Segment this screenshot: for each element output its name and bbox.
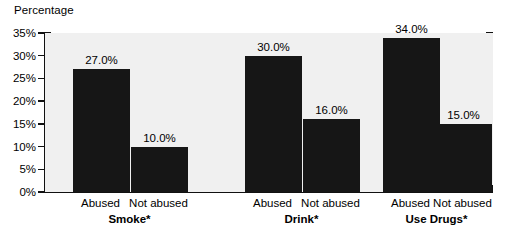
x-axis-category-label: Not abused xyxy=(129,196,188,210)
bar: 30.0% xyxy=(245,56,302,192)
y-axis-tick-label: 15% xyxy=(13,118,36,130)
bar: 16.0% xyxy=(303,119,360,192)
y-axis-tick xyxy=(38,146,45,147)
axis-frame-top-right-stub xyxy=(486,32,493,33)
bar-value-label: 34.0% xyxy=(395,23,428,36)
y-axis-tick-label: 5% xyxy=(19,163,36,175)
plot-area: 0%5%10%15%20%25%30%35% 27.0%10.0%30.0%16… xyxy=(44,33,493,193)
x-axis-category-label: Abused xyxy=(81,196,120,210)
y-axis-tick xyxy=(38,169,45,170)
x-axis-group-label: Smoke* xyxy=(108,212,150,226)
y-axis-tick xyxy=(38,191,45,192)
y-axis-tick-label: 20% xyxy=(13,95,36,107)
y-axis-tick-label: 10% xyxy=(13,141,36,153)
bar: 15.0% xyxy=(435,124,492,192)
bar-chart: Percentage 0%5%10%15%20%25%30%35% 27.0%1… xyxy=(0,0,506,240)
bar: 10.0% xyxy=(131,147,188,192)
chart-axis-title: Percentage xyxy=(14,3,74,17)
x-axis-category-label: Not abused xyxy=(433,196,492,210)
y-axis-tick xyxy=(38,123,45,124)
y-axis-tick-label: 25% xyxy=(13,72,36,84)
y-axis-tick xyxy=(38,100,45,101)
bar-value-label: 16.0% xyxy=(315,104,348,117)
bar: 27.0% xyxy=(73,69,130,192)
y-axis-tick-label: 0% xyxy=(19,186,36,198)
y-axis-tick-label: 35% xyxy=(13,27,36,39)
bar-value-label: 15.0% xyxy=(447,109,480,122)
y-axis-tick-label: 30% xyxy=(13,50,36,62)
y-axis-tick xyxy=(38,55,45,56)
x-axis-category-label: Not abused xyxy=(301,196,360,210)
bar: 34.0% xyxy=(383,38,440,192)
x-axis-category-label: Abused xyxy=(253,196,292,210)
y-axis-tick xyxy=(38,32,45,33)
bar-value-label: 27.0% xyxy=(85,54,118,67)
bar-value-label: 30.0% xyxy=(257,41,290,54)
x-axis-category-label: Abused xyxy=(391,196,430,210)
y-axis-tick xyxy=(38,78,45,79)
x-axis-group-label: Drink* xyxy=(285,212,319,226)
bar-value-label: 10.0% xyxy=(143,132,176,145)
x-axis-group-label: Use Drugs* xyxy=(406,212,468,226)
